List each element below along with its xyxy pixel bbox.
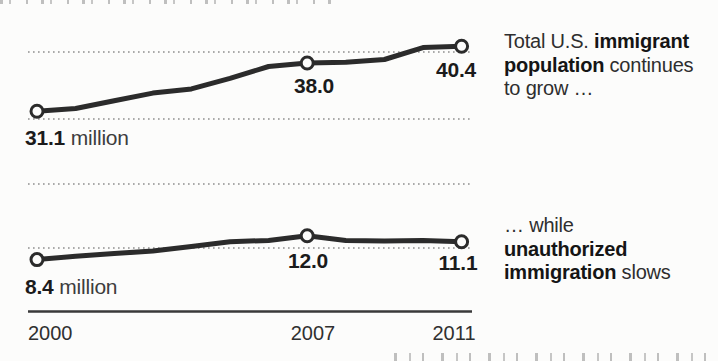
- annotation-text: Total U.S.: [504, 30, 594, 52]
- annotation-text: immigration: [504, 261, 616, 283]
- x-tick-2007: 2007: [291, 322, 336, 345]
- point-unit: million: [54, 275, 118, 298]
- annotation-bottom: … whileunauthorizedimmigration slows: [504, 214, 671, 285]
- annotation-top: Total U.S. immigrantpopulation continues…: [504, 30, 693, 101]
- data-point-marker: [456, 236, 468, 248]
- x-tick-2011: 2011: [432, 322, 475, 345]
- point-label-total-2000: 31.1 million: [25, 126, 129, 150]
- data-point-marker: [301, 230, 313, 242]
- point-label-unauthorized-2007: 12.0: [288, 249, 328, 273]
- point-label-unauthorized-2011: 11.1: [439, 251, 478, 275]
- annotation-text: unauthorized: [504, 238, 627, 260]
- line-series-0: [37, 46, 462, 111]
- annotation-text: slows: [616, 261, 670, 283]
- point-value: 31.1: [25, 126, 65, 149]
- point-unit: million: [65, 126, 129, 149]
- annotation-text: immigrant: [594, 30, 689, 52]
- data-point-marker: [31, 254, 43, 266]
- data-point-marker: [456, 40, 468, 52]
- point-value: 8.4: [25, 275, 54, 298]
- data-point-marker: [31, 105, 43, 117]
- annotation-text: … while: [504, 214, 574, 236]
- annotation-text: continues: [604, 54, 693, 76]
- x-tick-2000: 2000: [28, 322, 73, 345]
- point-label-total-2011: 40.4: [436, 58, 476, 82]
- annotation-text: to grow …: [504, 77, 593, 99]
- annotation-text: population: [504, 54, 604, 76]
- immigration-trend-figure: 31.1 million 38.0 40.4 8.4 million 12.0 …: [0, 0, 718, 361]
- point-label-unauthorized-2000: 8.4 million: [25, 275, 117, 299]
- point-label-total-2007: 38.0: [294, 74, 334, 98]
- data-point-marker: [301, 57, 313, 69]
